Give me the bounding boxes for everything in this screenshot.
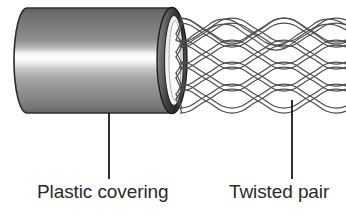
twisted-pair-4: [180, 84, 346, 113]
twisted-pairs-group: [176, 13, 346, 113]
jacket-body: [14, 8, 176, 113]
cable-diagram: [0, 0, 346, 224]
twisted-pair-2: [176, 30, 346, 69]
twisted-pair-3: [180, 62, 346, 91]
twisted-pair-cable-figure: Plastic covering Twisted pair: [0, 0, 346, 224]
plastic-jacket-group: [14, 8, 176, 113]
